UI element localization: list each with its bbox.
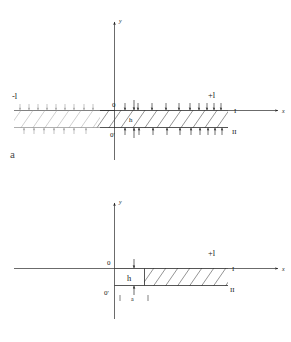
panel-a-arrows-top-right (125, 103, 221, 110)
figure-container: y x (0, 0, 291, 342)
panel-b-y-label: y (118, 199, 122, 205)
panel-b: y x h (0, 171, 291, 342)
panel-b-origin-label: 0 (107, 259, 111, 267)
panel-b-origin-prime-label: 0' (104, 289, 109, 297)
panel-a-region-two-label: II (232, 128, 237, 136)
panel-a: y x (0, 0, 291, 171)
panel-b-region-two-label: II (230, 286, 235, 294)
panel-b-h-label: h (127, 273, 132, 283)
panel-a-drawing: y x (0, 0, 291, 171)
panel-a-arrows-top-left (20, 104, 93, 110)
panel-b-region-one-label: I (232, 265, 235, 273)
panel-a-region-one-label: I (234, 107, 237, 115)
panel-a-h-label: h (129, 116, 133, 124)
panel-a-x-label: x (281, 108, 285, 114)
panel-a-y-label: y (118, 18, 122, 24)
panel-a-origin-label: 0 (112, 101, 116, 109)
panel-b-right-extent-label: +l (208, 248, 216, 258)
panel-a-right-extent-label: +l (208, 90, 216, 100)
panel-a-caption: a (10, 148, 15, 160)
panel-a-arrows-bottom-right (125, 128, 222, 135)
panel-a-left-extent-label: -l (12, 91, 18, 101)
panel-b-a-label: a (131, 296, 134, 302)
panel-a-arrows-bottom-left (24, 128, 86, 134)
panel-b-x-label: x (281, 266, 285, 272)
panel-b-drawing: y x h (0, 171, 291, 342)
panel-a-origin-prime-label: 0' (110, 131, 115, 139)
